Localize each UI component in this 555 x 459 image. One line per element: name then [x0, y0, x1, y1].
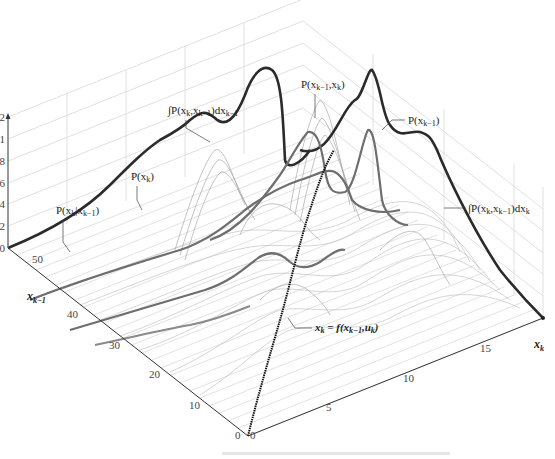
slice-curve-posterior: [30, 171, 400, 300]
svg-text:∫P(xk,xk−1)dxk−1: ∫P(xk,xk−1)dxk−1: [167, 104, 238, 118]
svg-text:P(xk|xk−1): P(xk|xk−1): [56, 204, 100, 218]
x-k-axis-end: [541, 316, 545, 320]
y-tick-40: 40: [67, 308, 79, 320]
marginal-curve-x-k: [300, 70, 543, 318]
y-tick-0: 0: [235, 429, 241, 441]
x-k-axis-line: [248, 318, 543, 436]
y-tick-50: 50: [32, 253, 44, 265]
x-tick-0: 0: [250, 429, 256, 441]
surface-plot: 0 0.2 0.4 0.6 0.8 1 1.2 50 40 30 20 10 0…: [0, 0, 555, 459]
x-tick-10: 10: [403, 372, 415, 384]
y-tick-10: 10: [189, 399, 201, 411]
y-ticks: 50 40 30 20 10 0: [32, 253, 241, 441]
back-wall-right: [303, 21, 543, 318]
annotation-marginal-k: ∫P(xk,xk−1)dxk: [444, 202, 530, 216]
x-axis-label: xk: [533, 337, 544, 353]
svg-text:P(xk): P(xk): [131, 170, 154, 184]
annotation-posterior: P(xk): [131, 170, 154, 210]
x-tick-15: 15: [480, 342, 492, 354]
y-axis-label: xk−1: [26, 289, 46, 305]
svg-text:P(xk−1,xk): P(xk−1,xk): [301, 78, 345, 92]
svg-text:xk = f(xk−1,uk): xk = f(xk−1,uk): [314, 321, 379, 335]
y-tick-20: 20: [149, 368, 161, 380]
transition-curve: [248, 150, 334, 436]
figure-caption-illegible: [222, 452, 450, 455]
slice-curve-joint: [210, 130, 408, 240]
svg-text:∫P(xk,xk−1)dxk: ∫P(xk,xk−1)dxk: [467, 202, 530, 216]
z-tick-0.4: 0.4: [0, 198, 6, 210]
x-ticks: 0 5 10 15: [250, 342, 492, 441]
x-tick-5: 5: [326, 401, 332, 413]
z-tick-0.8: 0.8: [0, 155, 6, 167]
slice-curve-conditional: [70, 250, 345, 330]
z-tick-1.2: 1.2: [0, 111, 5, 123]
z-tick-0: 0: [0, 242, 6, 254]
surface-slices: [60, 202, 520, 395]
z-tick-0.6: 0.6: [0, 177, 6, 189]
y-tick-30: 30: [109, 339, 121, 351]
annotation-transition: xk = f(xk−1,uk): [288, 318, 379, 335]
z-ticks: 0 0.2 0.4 0.6 0.8 1 1.2: [0, 111, 6, 254]
z-tick-0.2: 0.2: [0, 220, 5, 232]
z-tick-1: 1: [0, 133, 5, 145]
annotation-conditional: P(xk|xk−1): [56, 204, 100, 252]
